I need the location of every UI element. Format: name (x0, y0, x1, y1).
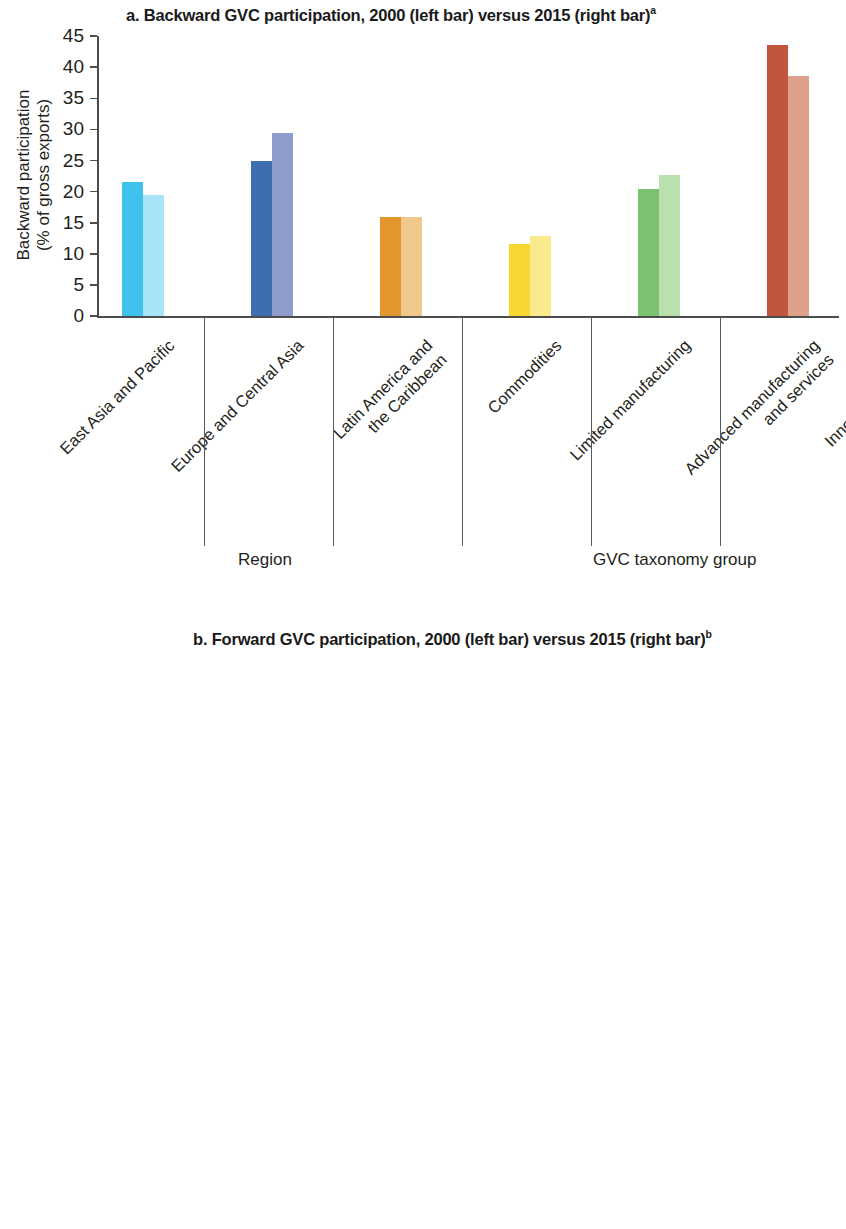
panel-a-y-axis-title: Backward participation (% of gross expor… (14, 30, 54, 320)
y-tick-label-0: 0 (73, 305, 84, 327)
y-tick-15: 15 (90, 222, 97, 224)
x-axis-label: Limited manufacturing (566, 336, 695, 465)
panel-a-plot-area: 051015202530354045 (97, 36, 839, 318)
panel-a-title-footnote-marker: a (650, 4, 656, 16)
y-tick-5: 5 (90, 284, 97, 286)
bar-group (113, 34, 173, 316)
x-axis-label-line: Advanced manufacturing (681, 336, 823, 478)
panel-a-y-axis-title-line1: Backward participation (14, 89, 33, 260)
bar-group (629, 34, 689, 316)
y-tick-label-20: 20 (63, 181, 84, 203)
y-tick-45: 45 (90, 35, 97, 37)
x-axis-label: Advanced manufacturingand services (681, 336, 838, 493)
y-tick-25: 25 (90, 160, 97, 162)
bar-2000 (767, 45, 788, 316)
x-axis-label-line: and services (695, 350, 838, 493)
panel-a-group-label-taxonomy: GVC taxonomy group (593, 550, 756, 570)
panel-a-title-text: a. Backward GVC participation, 2000 (lef… (126, 6, 650, 24)
bar-2015 (788, 76, 809, 316)
x-axis-label: Commodities (484, 336, 566, 418)
bar-group (242, 34, 302, 316)
x-axis-label: Latin America andthe Caribbean (330, 336, 451, 457)
x-axis-label-line: Limited manufacturing (566, 336, 694, 464)
y-tick-label-5: 5 (73, 274, 84, 296)
y-tick-label-30: 30 (63, 118, 84, 140)
bar-2015 (401, 217, 422, 317)
y-tick-label-15: 15 (63, 212, 84, 234)
panel-b-title-footnote-marker: b (706, 628, 712, 640)
y-tick-label-35: 35 (63, 87, 84, 109)
y-tick-label-40: 40 (63, 56, 84, 78)
y-tick-0: 0 (90, 315, 97, 317)
x-axis-label: East Asia and Pacific (56, 336, 179, 459)
bar-2000 (380, 217, 401, 317)
panel-b-title-text: b. Forward GVC participation, 2000 (left… (193, 630, 706, 648)
x-axis-label-line: Commodities (484, 336, 565, 417)
y-tick-35: 35 (90, 98, 97, 100)
bar-2000 (638, 189, 659, 316)
bar-group (758, 34, 818, 316)
category-separator (462, 318, 463, 546)
panel-backward-gvc: a. Backward GVC participation, 2000 (lef… (0, 0, 846, 600)
bar-2015 (659, 175, 680, 316)
category-separator (333, 318, 334, 546)
y-tick-40: 40 (90, 66, 97, 68)
bar-group (371, 34, 431, 316)
x-axis-label-line: Europe and Central Asia (168, 336, 307, 475)
panel-a-y-axis-title-line2: (% of gross exports) (34, 99, 53, 251)
bar-2000 (251, 161, 272, 316)
y-tick-label-45: 45 (63, 25, 84, 47)
bar-2000 (122, 182, 143, 316)
category-separator (720, 318, 721, 546)
panel-forward-gvc: b. Forward GVC participation, 2000 (left… (0, 600, 846, 1229)
bar-2015 (143, 195, 164, 316)
bar-2000 (509, 244, 530, 316)
category-separator (204, 318, 205, 546)
y-tick-label-25: 25 (63, 150, 84, 172)
bar-2015 (530, 236, 551, 316)
bar-2015 (272, 133, 293, 317)
x-axis-label: Europe and Central Asia (168, 336, 308, 476)
panel-a-group-label-region: Region (238, 550, 292, 570)
y-tick-10: 10 (90, 253, 97, 255)
panel-a-bars (97, 36, 839, 318)
y-tick-30: 30 (90, 129, 97, 131)
category-separator (591, 318, 592, 546)
bar-group (500, 34, 560, 316)
panel-b-title: b. Forward GVC participation, 2000 (left… (193, 628, 712, 649)
y-tick-20: 20 (90, 191, 97, 193)
panel-a-title: a. Backward GVC participation, 2000 (lef… (126, 4, 656, 25)
y-tick-label-10: 10 (63, 243, 84, 265)
x-axis-label-line: East Asia and Pacific (56, 336, 178, 458)
